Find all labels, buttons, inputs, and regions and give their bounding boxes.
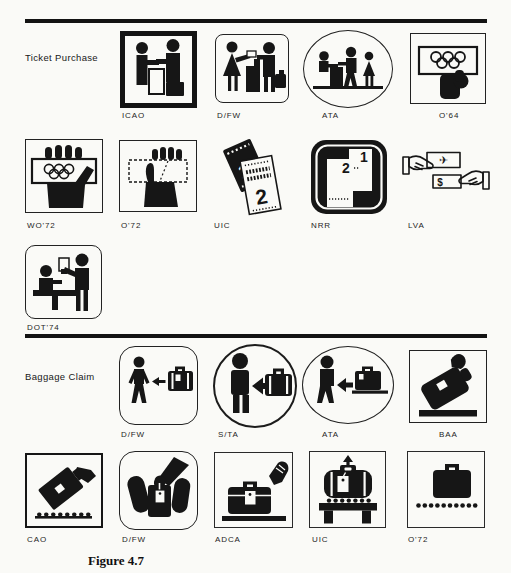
pictogram-cell-ata-claim: ATA — [302, 346, 394, 424]
woman-buying-ticket-icon — [217, 37, 287, 101]
pictogram-frame — [119, 346, 198, 425]
ticket-desk-scene-icon — [305, 33, 391, 105]
pictogram-frame — [119, 451, 198, 530]
pictogram-cell-adca: ADCA — [214, 452, 293, 528]
pictogram-cell-nrr: 1 2 NRR — [310, 139, 388, 215]
person-arrow-suitcase-icon — [121, 348, 196, 423]
pictogram-source-label: O'72 — [121, 221, 141, 230]
suitcase-dots-icon — [409, 453, 484, 527]
ticket-agent-counter-icon — [27, 248, 100, 317]
pictogram-source-label: CAO — [27, 535, 47, 544]
figure-caption: Figure 4.7 — [88, 553, 144, 569]
pictogram-cell-baa: BAA — [409, 350, 487, 423]
ticket-counter-exchange-icon — [126, 37, 192, 103]
ticket-number-1: 1 — [360, 149, 368, 165]
scanned-figure-page: Ticket Purchase ICAO — [0, 0, 511, 573]
pictogram-frame: ✈ $ — [402, 150, 490, 196]
tilted-suitcase-hand-icon — [411, 353, 485, 421]
pictogram-frame: 1 2 — [310, 139, 388, 215]
hand-olympic-ticket-icon — [27, 142, 101, 211]
numbered-tickets-icon: 1 2 — [310, 139, 388, 215]
dollar-glyph: $ — [437, 177, 443, 188]
pictogram-source-label: DOT'74 — [27, 323, 60, 332]
person-arrow-suitcase-belt-icon — [304, 349, 392, 421]
pictogram-source-label: UIC — [312, 535, 328, 544]
pictogram-source-label: ATA — [322, 111, 339, 120]
pictogram-source-label: D/FW — [122, 535, 146, 544]
pictogram-source-label: D/FW — [217, 111, 241, 120]
pictogram-cell-dfw-claim: D/FW — [119, 346, 198, 425]
pictogram-source-label: ATA — [322, 430, 339, 439]
airplane-glyph: ✈ — [439, 154, 448, 166]
pictogram-source-label: NRR — [311, 221, 331, 230]
pictogram-cell-lva: ✈ $ LVA — [402, 150, 490, 196]
pictogram-cell-dot74: DOT'74 — [25, 245, 102, 319]
pictogram-frame — [25, 245, 102, 319]
pictogram-cell-sta: S/TA — [213, 344, 297, 428]
pictogram-frame: 1 2 — [209, 136, 295, 222]
tilted-suitcase-conveyor-icon — [28, 456, 100, 525]
pictogram-frame — [309, 451, 386, 528]
suitcase-tag-bench-icon — [311, 453, 385, 527]
pictogram-source-label: D/FW — [121, 430, 145, 439]
pictogram-cell-icao: ICAO — [120, 31, 197, 108]
pictogram-source-label: WO'72 — [27, 221, 56, 230]
pictogram-frame — [215, 34, 289, 103]
person-arrow-suitcase-circle-icon — [215, 346, 295, 426]
pictogram-source-label: O'64 — [439, 111, 459, 120]
hand-grabbing-suitcase-icon — [121, 453, 196, 528]
pictogram-frame — [303, 30, 393, 108]
pictogram-cell-o72-claim: O'72 — [407, 451, 485, 528]
top-rule — [25, 19, 487, 23]
pictogram-frame — [407, 451, 485, 528]
pictogram-cell-uic-ticket: 1 2 UIC — [209, 136, 295, 222]
hand-olympic-rings-card-icon — [412, 36, 484, 102]
pictogram-frame — [120, 31, 197, 108]
section-title-baggage-claim: Baggage Claim — [25, 371, 95, 382]
pictogram-frame — [213, 344, 297, 428]
pictogram-cell-o72-ticket: O'72 — [119, 140, 197, 212]
pictogram-cell-cao: CAO — [25, 453, 103, 528]
pictogram-source-label: S/TA — [218, 430, 239, 439]
pictogram-cell-ata-ticket: ATA — [303, 30, 393, 108]
pictogram-source-label: BAA — [439, 430, 458, 439]
ticket-money-exchange-icon: ✈ $ — [402, 150, 490, 196]
pictogram-frame — [119, 140, 197, 212]
pictogram-frame — [410, 33, 486, 104]
pictogram-cell-dfw-ticket: D/FW — [215, 34, 289, 103]
pictogram-source-label: LVA — [408, 221, 425, 230]
pictogram-cell-dfw-grab: D/FW — [119, 451, 198, 530]
pictogram-source-label: ICAO — [122, 111, 145, 120]
pictogram-frame — [409, 350, 487, 423]
pictogram-cell-o64: O'64 — [410, 33, 486, 104]
pictogram-cell-uic-claim: UIC — [309, 451, 386, 528]
section-divider-rule — [25, 334, 487, 338]
pictogram-frame — [25, 139, 103, 213]
section-title-ticket-purchase: Ticket Purchase — [25, 52, 98, 63]
pictogram-source-label: O'72 — [408, 535, 428, 544]
pictogram-source-label: UIC — [214, 221, 230, 230]
suitcase-tag-hand-belt-icon — [216, 454, 292, 527]
pictogram-frame — [302, 346, 394, 424]
two-tickets-icon: 1 2 — [209, 136, 295, 222]
pictogram-frame — [214, 452, 293, 528]
pictogram-source-label: ADCA — [215, 535, 241, 544]
pictogram-cell-wo72: WO'72 — [25, 139, 103, 213]
ticket-number-2: 2 — [342, 160, 350, 176]
hand-ticket-icon — [121, 143, 195, 210]
pictogram-frame — [25, 453, 103, 528]
